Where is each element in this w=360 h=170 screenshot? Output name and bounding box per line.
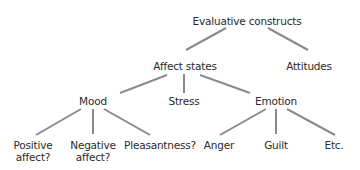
node-etc: Etc. [324,139,343,151]
edge-affect-to-emotion [200,75,250,93]
node-positive-affect-line1: Positive [14,139,53,151]
edge-mood-to-pleasantness [104,109,150,135]
node-evaluative-constructs: Evaluative constructs [193,15,302,27]
node-anger: Anger [204,139,234,151]
edge-mood-to-positive [36,109,81,135]
edge-emotion-to-etc [287,109,335,135]
edge-affect-to-mood [120,75,167,93]
node-guilt: Guilt [264,139,288,151]
edge-emotion-to-anger [220,109,266,135]
edge-evaluative-to-attitudes [268,28,308,50]
node-stress: Stress [168,95,199,107]
node-negative-affect-line1: Negative [70,139,116,151]
node-attitudes: Attitudes [286,60,332,72]
node-negative-affect: Negative affect? [70,139,116,163]
node-mood: Mood [79,95,107,107]
node-pleasantness: Pleasantness? [124,139,196,151]
node-negative-affect-line2: affect? [70,151,116,163]
node-emotion: Emotion [255,95,297,107]
node-positive-affect-line2: affect? [14,151,53,163]
node-positive-affect: Positive affect? [14,139,53,163]
edge-evaluative-to-affect [186,28,226,50]
node-affect-states: Affect states [153,60,216,72]
